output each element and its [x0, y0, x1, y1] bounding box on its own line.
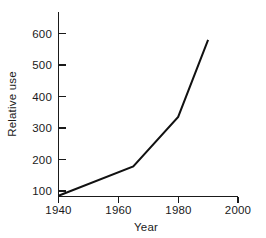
x-tick-label-1980: 1980: [165, 204, 191, 216]
y-tick-label-200: 200: [32, 154, 52, 166]
y-tick-label-600: 600: [32, 28, 52, 40]
y-axis-title: Relative use: [6, 71, 18, 137]
x-tick-label-1940: 1940: [45, 204, 71, 216]
x-tick-label-2000: 2000: [225, 204, 251, 216]
y-tick-label-400: 400: [32, 91, 52, 103]
y-tick-label-300: 300: [32, 122, 52, 134]
y-tick-label-500: 500: [32, 59, 52, 71]
x-tick-label-1960: 1960: [105, 204, 131, 216]
data-series-line: [59, 40, 209, 196]
chart-canvas: 600 500 400 300 200 100 1940 1960 1980 2…: [0, 0, 266, 238]
line-chart: 600 500 400 300 200 100 1940 1960 1980 2…: [0, 0, 266, 238]
x-axis-title: Year: [134, 221, 158, 233]
y-tick-label-100: 100: [32, 185, 52, 197]
